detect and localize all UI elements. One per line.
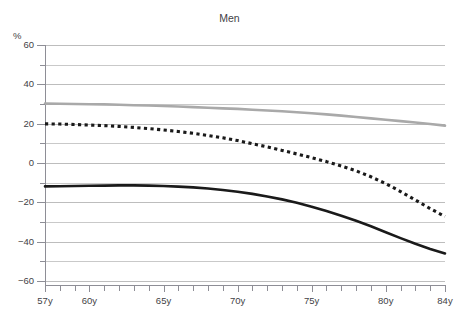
y-axis-tick-label: −40	[8, 237, 34, 247]
x-axis-tick	[297, 285, 298, 291]
y-axis-tick	[40, 222, 45, 223]
chart-screenshot: Men % 6040200−20−40−60 57y60y65y70y75y80…	[0, 0, 459, 324]
gridline	[45, 65, 445, 66]
gridline	[45, 163, 445, 164]
x-axis-tick-label: 80y	[378, 295, 393, 306]
y-axis-tick	[40, 104, 45, 105]
x-axis-tick	[445, 285, 446, 292]
gridline	[45, 261, 445, 262]
x-axis-tick	[193, 285, 194, 291]
gridline	[45, 124, 445, 125]
x-axis-tick	[134, 285, 135, 291]
x-axis-tick	[208, 285, 209, 291]
x-axis-tick-label: 84y	[437, 295, 452, 306]
x-axis-tick	[252, 285, 253, 291]
x-axis-tick	[178, 285, 179, 291]
y-axis-tick-label: 20	[8, 119, 34, 129]
x-axis-tick	[45, 285, 46, 292]
x-axis-tick	[371, 285, 372, 291]
gridline	[45, 143, 445, 144]
x-axis-tick	[60, 285, 61, 291]
gridline	[45, 183, 445, 184]
gridline	[45, 222, 445, 223]
y-axis-tick	[40, 65, 45, 66]
x-axis-tick	[89, 285, 90, 292]
y-axis-tick	[37, 202, 45, 203]
x-axis-tick-label: 70y	[230, 295, 245, 306]
gridline	[45, 281, 445, 282]
x-axis-tick	[326, 285, 327, 291]
x-axis-tick	[267, 285, 268, 291]
y-axis-tick	[40, 261, 45, 262]
y-axis-tick	[37, 84, 45, 85]
x-axis-tick	[415, 285, 416, 291]
x-axis-tick-label: 65y	[156, 295, 171, 306]
y-axis-tick	[37, 163, 45, 164]
y-axis-tick-label: −60	[8, 276, 34, 286]
y-axis-tick-label: 0	[8, 158, 34, 168]
x-axis-tick-label: 60y	[82, 295, 97, 306]
x-axis-tick	[282, 285, 283, 291]
y-axis-tick	[40, 183, 45, 184]
x-axis-tick	[104, 285, 105, 291]
x-axis-tick	[75, 285, 76, 291]
x-axis-tick	[341, 285, 342, 291]
y-axis-tick	[37, 45, 45, 46]
chart-title: Men	[0, 12, 459, 24]
gridline	[45, 45, 445, 46]
plot-area	[45, 45, 445, 281]
y-axis-tick	[40, 143, 45, 144]
x-axis-tick	[223, 285, 224, 291]
clipped-header-text	[0, 0, 459, 5]
gridline	[45, 242, 445, 243]
y-axis-labels: 6040200−20−40−60	[4, 0, 34, 324]
x-axis-tick	[149, 285, 150, 291]
y-axis-tick	[37, 281, 45, 282]
x-axis-tick	[386, 285, 387, 292]
x-axis-tick	[119, 285, 120, 291]
x-axis-tick	[238, 285, 239, 292]
x-axis-tick	[430, 285, 431, 291]
x-axis-tick	[356, 285, 357, 291]
y-axis-line	[45, 45, 46, 285]
y-axis-tick-label: 60	[8, 40, 34, 50]
y-axis-tick-label: −20	[8, 197, 34, 207]
y-axis-tick	[37, 124, 45, 125]
gridline	[45, 104, 445, 105]
x-axis-tick	[401, 285, 402, 291]
x-axis-tick	[312, 285, 313, 292]
y-axis-tick-label: 40	[8, 79, 34, 89]
gridline	[45, 202, 445, 203]
x-axis-tick-label: 57y	[37, 295, 52, 306]
y-axis-tick	[37, 242, 45, 243]
gridline	[45, 84, 445, 85]
x-axis-tick-label: 75y	[304, 295, 319, 306]
x-axis-tick	[164, 285, 165, 292]
